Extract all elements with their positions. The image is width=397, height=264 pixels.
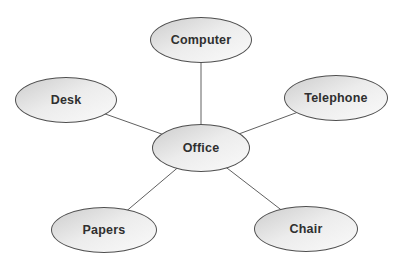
node-papers: Papers	[51, 207, 157, 253]
node-computer-label: Computer	[171, 33, 232, 47]
node-desk-label: Desk	[51, 93, 82, 107]
node-office-label: Office	[183, 141, 220, 155]
node-office-center: Office	[152, 124, 250, 172]
spider-diagram: Computer Desk Telephone Office Papers Ch…	[0, 0, 397, 264]
node-desk: Desk	[15, 77, 117, 123]
node-chair-label: Chair	[290, 222, 323, 236]
node-telephone: Telephone	[284, 75, 388, 121]
node-chair: Chair	[254, 206, 358, 252]
node-telephone-label: Telephone	[304, 91, 367, 105]
node-computer: Computer	[150, 17, 252, 63]
node-papers-label: Papers	[83, 223, 126, 237]
